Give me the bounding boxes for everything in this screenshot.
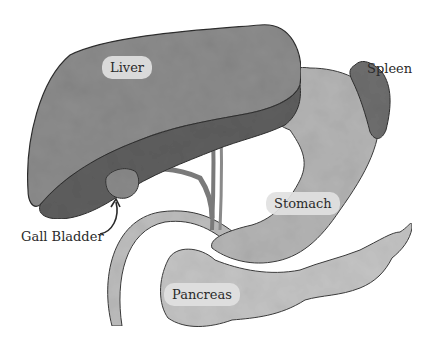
organ-diagram [0, 0, 435, 360]
label-spleen: Spleen [367, 62, 412, 75]
label-pancreas: Pancreas [164, 283, 240, 306]
gall-bladder-shape [106, 169, 139, 199]
label-liver: Liver [102, 56, 152, 79]
label-gall-bladder: Gall Bladder [21, 230, 104, 243]
label-stomach: Stomach [266, 192, 340, 215]
